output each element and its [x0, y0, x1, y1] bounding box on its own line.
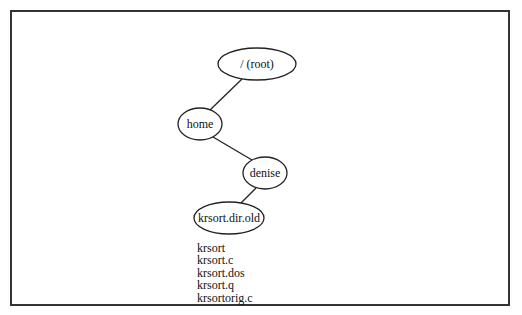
- node-root-label: / (root): [240, 57, 274, 71]
- node-denise-label: denise: [250, 166, 281, 180]
- file-item: krsortorig.c: [197, 292, 253, 304]
- node-home-label: home: [187, 117, 214, 131]
- node-krsort-dir-old-label: krsort.dir.old: [198, 211, 260, 225]
- edge-home-denise: [213, 137, 252, 160]
- file-item: krsort.q: [197, 279, 253, 291]
- file-list: krsort krsort.c krsort.dos krsort.q krso…: [197, 242, 253, 304]
- tree-diagram: / (root) home denise krsort.dir.old: [0, 0, 522, 315]
- file-item: krsort.c: [197, 254, 253, 266]
- edge-denise-krsort: [241, 188, 256, 203]
- edge-root-home: [210, 79, 242, 110]
